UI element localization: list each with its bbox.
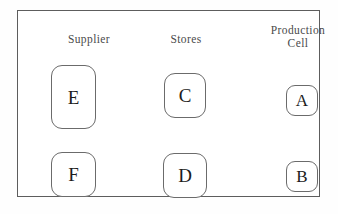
node-box-b[interactable]: B — [286, 161, 318, 192]
node-label-c: C — [179, 86, 192, 105]
node-label-b: B — [296, 168, 307, 185]
node-label-f: F — [68, 165, 79, 184]
outer-boundary-frame: Supplier Stores Production Cell E F C D … — [17, 10, 320, 197]
diagram-canvas: Supplier Stores Production Cell E F C D … — [0, 0, 338, 214]
column-label-supplier: Supplier — [46, 33, 132, 46]
node-box-c[interactable]: C — [164, 73, 206, 118]
column-label-stores: Stores — [143, 33, 229, 46]
node-label-d: D — [178, 166, 192, 185]
node-label-a: A — [296, 92, 308, 109]
column-label-production-cell: Production Cell — [261, 24, 335, 49]
node-box-d[interactable]: D — [163, 153, 207, 198]
node-label-e: E — [68, 88, 80, 107]
node-box-f[interactable]: F — [51, 152, 96, 197]
node-box-a[interactable]: A — [286, 85, 318, 116]
node-box-e[interactable]: E — [51, 65, 96, 129]
